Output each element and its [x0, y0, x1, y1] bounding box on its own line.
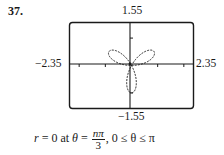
fraction: nπ3: [92, 128, 105, 151]
caption-eq2: =: [78, 131, 91, 145]
caption-eq1: = 0 at: [39, 131, 72, 145]
fraction-denominator: 3: [92, 140, 105, 151]
caption: r = 0 at θ = nπ3, 0 ≤ θ ≤ π: [34, 128, 155, 151]
origin-point: [129, 63, 132, 66]
caption-tail: , 0 ≤ θ ≤ π: [106, 131, 155, 145]
rose-curve: [108, 50, 154, 93]
